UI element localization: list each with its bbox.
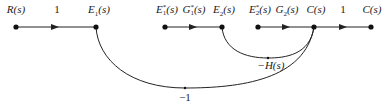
label-gain-c-out: 1 [340,3,346,15]
label-c-out: C(s) [363,3,382,15]
arrow-icon [339,24,347,30]
node-e2star [255,24,260,29]
label-g1star: G*1(s) [182,3,205,16]
label-r: R(s) [7,3,25,15]
label-e1: E1(s) [88,3,110,18]
feedback-neg1-midpoint [184,87,186,89]
node-e2 [219,24,224,29]
label-g2: G2(s) [275,3,298,18]
node-c [311,24,316,29]
label-feedback-neg1: −1 [179,91,191,103]
label-gain-r-e1: 1 [54,3,60,15]
label-e1star: E*1(s) [156,3,178,16]
node-r [13,24,18,29]
branch-feedback-h [222,27,314,58]
node-e1star [162,24,167,29]
label-feedback-h: −H(s) [258,59,285,71]
arrow-icon [282,24,290,30]
label-e2: E2(s) [213,3,235,18]
label-e2star: E*2(s) [249,3,271,16]
node-c-out [368,24,373,29]
node-e1 [93,24,98,29]
label-c: C(s) [307,3,326,15]
arrow-icon [189,24,197,30]
arrow-icon [51,24,59,30]
